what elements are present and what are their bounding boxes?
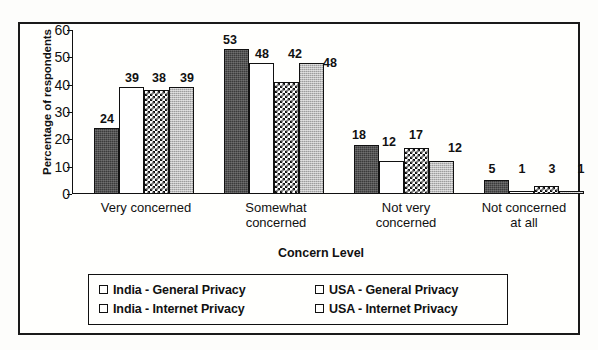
bar-label-g3-s1: 1 bbox=[505, 162, 539, 176]
category-label-very-concerned: Very concerned bbox=[82, 200, 210, 215]
bar-g2-usa-internet[interactable] bbox=[429, 161, 454, 194]
bar-label-g2-s0: 18 bbox=[342, 128, 376, 142]
chart-legend: India - General Privacy USA - General Pr… bbox=[88, 274, 508, 325]
bar-g2-india-internet[interactable] bbox=[404, 148, 429, 195]
legend-label: USA - General Privacy bbox=[329, 283, 458, 297]
legend-label: India - Internet Privacy bbox=[113, 302, 245, 316]
bar-g1-india-general[interactable] bbox=[224, 49, 249, 194]
category-label-somewhat-concerned: Somewhat concerned bbox=[212, 200, 340, 230]
y-axis-tick-labels: 60 50 40 30 20 10 0 bbox=[44, 24, 70, 194]
legend-swatch-icon-white bbox=[315, 285, 324, 294]
bar-g3-india-general[interactable] bbox=[484, 180, 509, 194]
category-line: Somewhat bbox=[212, 200, 340, 215]
legend-item-india-internet-privacy[interactable]: India - Internet Privacy bbox=[99, 302, 315, 316]
bar-g2-india-general[interactable] bbox=[354, 145, 379, 194]
legend-swatch-icon-checkerboard bbox=[99, 304, 108, 313]
legend-row: India - General Privacy USA - General Pr… bbox=[99, 280, 499, 299]
bar-g0-india-general[interactable] bbox=[94, 128, 119, 194]
bar-label-g3-s0: 5 bbox=[475, 162, 509, 176]
legend-item-usa-internet-privacy[interactable]: USA - Internet Privacy bbox=[315, 302, 458, 316]
category-line: Not concerned bbox=[460, 200, 588, 215]
bar-g1-usa-general[interactable] bbox=[249, 63, 274, 194]
bar-label-g3-s3: 1 bbox=[564, 162, 598, 176]
bar-group-somewhat-concerned: 53 48 42 48 bbox=[224, 30, 328, 194]
category-label-not-concerned-at-all: Not concerned at all bbox=[460, 200, 588, 230]
bar-groups: 24 39 38 39 53 48 42 48 bbox=[72, 30, 570, 194]
bar-label-g1-s3: 48 bbox=[313, 56, 347, 70]
category-line: at all bbox=[460, 215, 588, 230]
bar-g1-usa-internet[interactable] bbox=[299, 63, 324, 194]
legend-item-usa-general-privacy[interactable]: USA - General Privacy bbox=[315, 283, 458, 297]
axes: 24 39 38 39 53 48 42 48 bbox=[72, 30, 570, 194]
legend-item-india-general-privacy[interactable]: India - General Privacy bbox=[99, 283, 315, 297]
bar-g3-india-internet[interactable] bbox=[534, 186, 559, 194]
bar-label-g1-s2: 42 bbox=[278, 47, 312, 61]
y-tick-mark-0 bbox=[67, 194, 72, 195]
bar-g1-india-internet[interactable] bbox=[274, 82, 299, 194]
category-line: Very concerned bbox=[82, 200, 210, 215]
bar-group-very-concerned: 24 39 38 39 bbox=[94, 30, 198, 194]
x-axis-category-labels: Very concerned Somewhat concerned Not ve… bbox=[72, 200, 570, 244]
category-label-not-very-concerned: Not very concerned bbox=[342, 200, 470, 230]
legend-label: USA - Internet Privacy bbox=[329, 302, 458, 316]
bar-label-g0-s3: 39 bbox=[170, 71, 204, 85]
bar-g2-usa-general[interactable] bbox=[379, 161, 404, 194]
chart-figure: Percentage of respondents 60 50 40 30 20… bbox=[18, 22, 580, 335]
bar-g0-usa-general[interactable] bbox=[119, 87, 144, 194]
plot-area: Percentage of respondents 60 50 40 30 20… bbox=[20, 24, 582, 269]
bar-g0-india-internet[interactable] bbox=[144, 90, 169, 194]
legend-swatch-icon-light-gray bbox=[315, 304, 324, 313]
legend-swatch-icon-dark-solid bbox=[99, 285, 108, 294]
bar-label-g0-s0: 24 bbox=[90, 112, 124, 126]
category-line: concerned bbox=[342, 215, 470, 230]
bar-label-g2-s2: 17 bbox=[399, 128, 433, 142]
bar-g3-usa-internet[interactable] bbox=[559, 191, 584, 194]
legend-row: India - Internet Privacy USA - Internet … bbox=[99, 299, 499, 318]
bar-label-g2-s3: 12 bbox=[438, 141, 472, 155]
bar-label-g1-s1: 48 bbox=[245, 47, 279, 61]
category-line: concerned bbox=[212, 215, 340, 230]
bar-g0-usa-internet[interactable] bbox=[169, 87, 194, 194]
bar-group-not-very-concerned: 18 12 17 12 bbox=[354, 30, 458, 194]
bar-g3-usa-general[interactable] bbox=[509, 191, 534, 194]
bar-label-g1-s0: 53 bbox=[213, 33, 247, 47]
category-line: Not very bbox=[342, 200, 470, 215]
legend-label: India - General Privacy bbox=[113, 283, 245, 297]
bar-group-not-concerned-at-all: 5 1 3 1 bbox=[484, 30, 588, 194]
x-axis-title: Concern Level bbox=[72, 246, 570, 260]
